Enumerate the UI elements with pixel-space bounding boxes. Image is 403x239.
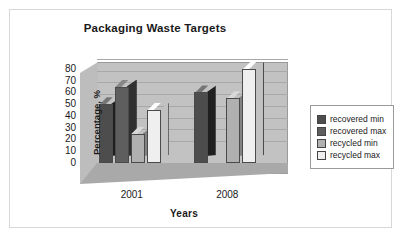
bar-recycled-max-2008 (242, 69, 256, 163)
y-axis-tick-label: 20 (52, 133, 76, 144)
bar-front-face (226, 98, 240, 163)
bar-front-face (131, 134, 145, 163)
x-axis-tick-label: 2001 (102, 189, 162, 200)
legend-label: recycled max (330, 150, 380, 160)
bar-front-face (194, 92, 208, 163)
y-axis-tick-label: 60 (52, 86, 76, 97)
bar-front-face (242, 69, 256, 163)
legend-swatch (317, 115, 326, 124)
legend-swatch (317, 139, 326, 148)
legend-item-recovered-max[interactable]: recovered max (317, 126, 388, 136)
legend-swatch (317, 127, 326, 136)
bar-recycled-max-2001 (147, 110, 161, 163)
bar-recycled-min-2001 (131, 134, 145, 163)
legend-item-recycled-max[interactable]: recycled max (317, 150, 388, 160)
y-axis-label: Percentage, % (91, 90, 102, 155)
y-axis-tick-label: 50 (52, 98, 76, 109)
chart-legend: recovered minrecovered maxrecycled minre… (310, 105, 394, 169)
bar-recovered-min-2008 (194, 92, 208, 163)
bar-recovered-max-2001 (115, 87, 129, 163)
bar-recycled-min-2008 (226, 98, 240, 163)
plot-floor (80, 163, 288, 184)
bar-front-face (115, 87, 129, 163)
legend-swatch (317, 151, 326, 160)
y-axis-tick-label: 80 (52, 63, 76, 74)
y-axis-tick-label: 10 (52, 145, 76, 156)
legend-label: recovered min (330, 114, 384, 124)
y-axis-tick-label: 40 (52, 110, 76, 121)
legend-item-recycled-min[interactable]: recycled min (317, 138, 388, 148)
chart-frame: Packaging Waste Targets 0102030405060708… (9, 9, 392, 228)
y-axis-tick-label: 70 (52, 75, 76, 86)
y-axis-tick-label: 0 (52, 157, 76, 168)
legend-label: recovered max (330, 126, 386, 136)
x-axis-label: Years (80, 208, 288, 219)
plot-area: 01020304050607080 20012008 Percentage, %… (80, 62, 288, 184)
y-axis-tick-label: 30 (52, 122, 76, 133)
bar-front-face (147, 110, 161, 163)
chart-title: Packaging Waste Targets (10, 22, 300, 34)
gridline (97, 59, 288, 60)
legend-item-recovered-min[interactable]: recovered min (317, 114, 388, 124)
x-axis-tick-label: 2008 (197, 189, 257, 200)
legend-label: recycled min (330, 138, 378, 148)
